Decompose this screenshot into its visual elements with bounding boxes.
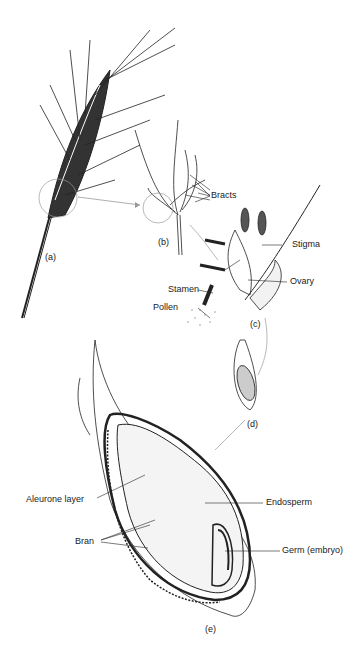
panel-label-b: (b) — [158, 238, 169, 247]
grain-cross-section — [78, 340, 255, 616]
label-ovary: Ovary — [290, 277, 314, 286]
panel-label-e: (e) — [205, 625, 216, 634]
wheat-ear — [22, 28, 175, 318]
label-stigma: Stigma — [292, 240, 320, 249]
label-pollen: Pollen — [153, 303, 178, 312]
label-germ-embryo: Germ (embryo) — [282, 546, 343, 555]
label-stamen: Stamen — [168, 285, 199, 294]
label-aleurone-layer: Aleurone layer — [26, 495, 84, 504]
panel-label-c: (c) — [250, 320, 261, 329]
pollen-dots — [187, 309, 215, 325]
label-bran: Bran — [75, 537, 94, 546]
panel-label-a: (a) — [45, 253, 56, 262]
diagram-illustration — [0, 0, 363, 666]
label-bracts: Bracts — [211, 191, 237, 200]
panel-label-d: (d) — [247, 420, 258, 429]
label-endosperm: Endosperm — [266, 498, 312, 507]
small-grain — [234, 340, 259, 410]
